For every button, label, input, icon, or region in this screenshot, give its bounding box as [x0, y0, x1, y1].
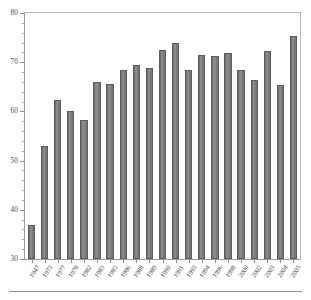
x-axis-tick: [32, 259, 33, 263]
y-axis-tick-label: 70: [11, 58, 18, 66]
bar: [198, 55, 205, 259]
x-axis-tick: [97, 259, 98, 263]
y-axis-minor-tick: [22, 180, 25, 181]
y-axis-tick-label: 50: [11, 157, 18, 165]
figure: 304050607080 194719731977197819821983198…: [0, 0, 311, 300]
bar: [172, 43, 179, 259]
y-axis-major-tick: [20, 161, 25, 162]
x-axis-tick-label: 1994: [197, 264, 210, 278]
bar: [28, 225, 35, 259]
x-axis-tick-label: 2002: [250, 264, 263, 278]
x-axis-tick-label: 1989: [145, 264, 158, 278]
y-axis-minor-tick: [22, 200, 25, 201]
x-axis-tick-label: 1983: [93, 264, 106, 278]
y-axis-minor-tick: [22, 141, 25, 142]
x-axis-tick: [110, 259, 111, 263]
y-axis-minor-tick: [22, 52, 25, 53]
y-axis-tick-label: 60: [11, 107, 18, 115]
top-page-mark: [71, 1, 76, 4]
y-axis-minor-tick: [22, 92, 25, 93]
bar: [54, 100, 61, 259]
x-axis-tick-label: 1986: [119, 264, 132, 278]
x-axis-tick-label: 2003: [263, 264, 276, 278]
y-axis-minor-tick: [22, 33, 25, 34]
x-axis-tick: [280, 259, 281, 263]
y-axis-major-tick: [20, 62, 25, 63]
y-axis-minor-tick: [22, 121, 25, 122]
bar: [106, 84, 113, 259]
plot-area: 304050607080 194719731977197819821983198…: [24, 12, 301, 260]
bar: [211, 56, 218, 259]
y-axis-minor-tick: [22, 23, 25, 24]
y-axis-minor-tick: [22, 43, 25, 44]
x-axis-tick-label: 1996: [211, 264, 224, 278]
y-axis-tick-label: 30: [11, 255, 18, 263]
y-axis-tick-label: 40: [11, 206, 18, 214]
y-axis-minor-tick: [22, 131, 25, 132]
bar: [185, 70, 192, 259]
x-axis-tick: [267, 259, 268, 263]
x-axis-tick: [254, 259, 255, 263]
y-axis-major-tick: [20, 259, 25, 260]
x-axis-tick-label: 1990: [158, 264, 171, 278]
x-axis-tick: [149, 259, 150, 263]
y-axis-minor-tick: [22, 151, 25, 152]
bar: [277, 85, 284, 259]
x-axis-tick: [71, 259, 72, 263]
bar: [146, 68, 153, 259]
x-axis-tick-label: 1982: [80, 264, 93, 278]
bar: [251, 80, 258, 259]
x-axis-tick: [215, 259, 216, 263]
x-axis-tick-label: 1973: [40, 264, 53, 278]
x-axis-tick: [58, 259, 59, 263]
x-axis-tick: [163, 259, 164, 263]
bar: [159, 50, 166, 259]
y-axis-major-tick: [20, 111, 25, 112]
bar: [224, 53, 231, 259]
footer-rule: [9, 291, 302, 292]
bar: [93, 82, 100, 259]
y-axis-minor-tick: [22, 229, 25, 230]
y-axis-minor-tick: [22, 249, 25, 250]
x-axis-tick-label: 1947: [27, 264, 40, 278]
y-axis-major-tick: [20, 210, 25, 211]
bar: [264, 51, 271, 259]
y-axis-major-tick: [20, 13, 25, 14]
x-axis-tick: [293, 259, 294, 263]
x-axis-tick: [45, 259, 46, 263]
bar: [290, 36, 297, 259]
x-axis-tick-label: 1978: [66, 264, 79, 278]
x-axis-tick: [241, 259, 242, 263]
x-axis-tick-label: 1988: [132, 264, 145, 278]
x-axis-tick: [228, 259, 229, 263]
bar: [120, 70, 127, 259]
y-axis-minor-tick: [22, 72, 25, 73]
y-axis-tick-label: 80: [11, 9, 18, 17]
x-axis-tick: [202, 259, 203, 263]
bar: [133, 65, 140, 259]
x-axis-tick-label: 1991: [171, 264, 184, 278]
x-axis-tick: [189, 259, 190, 263]
y-axis-minor-tick: [22, 102, 25, 103]
x-axis-tick-label: 2005: [289, 264, 302, 278]
bar: [80, 120, 87, 259]
bar: [237, 70, 244, 259]
x-axis-tick-label: 1998: [224, 264, 237, 278]
y-axis-minor-tick: [22, 239, 25, 240]
x-axis-tick-label: 1977: [53, 264, 66, 278]
y-axis-minor-tick: [22, 190, 25, 191]
x-axis-tick-label: 1993: [184, 264, 197, 278]
bar: [67, 111, 74, 259]
x-axis-tick: [136, 259, 137, 263]
x-axis-tick: [176, 259, 177, 263]
x-axis-tick: [84, 259, 85, 263]
y-axis-minor-tick: [22, 170, 25, 171]
x-axis-tick-label: 2000: [237, 264, 250, 278]
y-axis-minor-tick: [22, 220, 25, 221]
x-axis-tick: [123, 259, 124, 263]
y-axis-minor-tick: [22, 82, 25, 83]
x-axis-tick-label: 1985: [106, 264, 119, 278]
bar: [41, 146, 48, 259]
x-axis-tick-label: 2004: [276, 264, 289, 278]
